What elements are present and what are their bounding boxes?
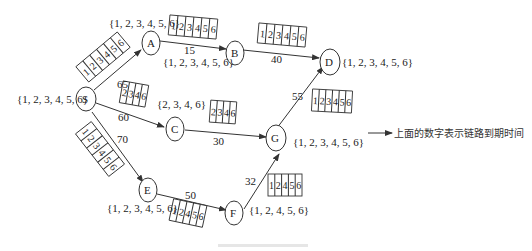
svg-text:1: 1: [313, 95, 319, 106]
weight-b-d: 40: [271, 53, 283, 65]
svg-text:3: 3: [186, 21, 192, 32]
svg-text:A: A: [147, 37, 155, 49]
set-c: {2, 3, 4, 6}: [157, 98, 206, 110]
svg-text:6: 6: [296, 180, 301, 191]
svg-text:2: 2: [319, 95, 325, 106]
svg-text:4: 4: [224, 107, 230, 118]
node-f: F {1, 2, 4, 5, 6}: [225, 201, 309, 225]
node-g: G {1, 2, 3, 4, 5, 6}: [266, 125, 364, 151]
svg-text:3: 3: [326, 96, 332, 107]
svg-text:C: C: [171, 123, 178, 135]
svg-text:1: 1: [260, 28, 266, 39]
svg-text:6: 6: [210, 24, 216, 35]
svg-text:6: 6: [230, 108, 236, 119]
svg-text:4: 4: [194, 22, 200, 33]
svg-text:6: 6: [299, 32, 305, 43]
svg-text:6: 6: [346, 97, 352, 108]
node-s: S {1, 2, 3, 4, 5, 6}: [17, 87, 96, 111]
slots-s-a: 1 2 3 4 5 6: [76, 32, 130, 82]
svg-text:5: 5: [291, 31, 297, 42]
svg-text:5: 5: [202, 23, 208, 34]
slots-f-g: 1 2 4 5 6: [268, 174, 302, 196]
slots-g-d: 1 2 3 4 5 6: [311, 89, 352, 113]
weight-s-c: 60: [118, 111, 130, 123]
network-diagram: 1 2 3 4 5 6 2 3 4 6 1 2 3 4 5 6: [0, 0, 532, 251]
weight-a-b: 15: [184, 44, 196, 56]
weight-s-e: 70: [117, 133, 129, 145]
svg-text:2: 2: [268, 29, 274, 40]
svg-text:3: 3: [217, 107, 223, 118]
node-d: D {1, 2, 3, 4, 5, 6}: [320, 49, 413, 75]
legend: 上面的数字表示链路到期时间: [368, 127, 524, 139]
weight-g-d: 55: [292, 90, 304, 102]
svg-text:5: 5: [289, 180, 294, 191]
edge-s-c: [96, 103, 164, 127]
svg-text:4: 4: [283, 180, 288, 191]
caption-fragment: [218, 244, 308, 247]
weight-s-c-upper: 65: [117, 78, 129, 90]
set-f: {1, 2, 4, 5, 6}: [249, 204, 309, 216]
svg-text:5: 5: [339, 96, 345, 107]
set-g: {1, 2, 3, 4, 5, 6}: [293, 136, 364, 148]
node-c: C {2, 3, 4, 6}: [157, 98, 206, 141]
svg-text:4: 4: [283, 30, 289, 41]
slots-c-g: 2 3 4 6: [209, 100, 236, 124]
weight-e-f: 50: [185, 189, 197, 201]
slots-b-d: 1 2 3 4 5 6: [257, 23, 307, 47]
set-s: {1, 2, 3, 4, 5, 6}: [17, 93, 88, 105]
svg-text:F: F: [230, 207, 236, 219]
set-e: {1, 2, 3, 4, 5, 6}: [107, 202, 178, 214]
node-b: B {1, 2, 3, 4, 5, 6}: [163, 41, 244, 68]
svg-text:2: 2: [276, 180, 281, 191]
svg-text:2: 2: [211, 106, 217, 117]
set-b: {1, 2, 3, 4, 5, 6}: [163, 56, 234, 68]
slots-s-e: 1 2 3 4 5 6: [75, 122, 124, 177]
edge-c-g: [185, 130, 266, 137]
weight-f-g: 32: [245, 175, 256, 187]
weight-c-g: 30: [213, 135, 225, 147]
legend-text: 上面的数字表示链路到期时间: [394, 127, 524, 139]
svg-text:3: 3: [275, 29, 281, 40]
svg-text:1: 1: [269, 180, 274, 191]
svg-text:G: G: [271, 132, 279, 144]
svg-text:4: 4: [333, 96, 339, 107]
svg-text:D: D: [325, 56, 333, 68]
set-a: {1, 2, 3, 4, 5, 6}: [109, 17, 180, 29]
svg-text:E: E: [144, 184, 151, 196]
set-d: {1, 2, 3, 4, 5, 6}: [342, 56, 413, 68]
